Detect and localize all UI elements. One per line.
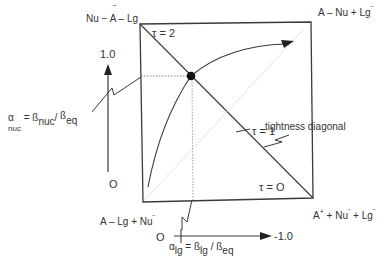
- corner-label-top-left: Nu − A – Lg: [86, 13, 138, 24]
- x-axis-name: αlg = ßlg / ßeq: [169, 241, 233, 256]
- corner-label-bottom-left: A – Lg + Nu‾: [100, 215, 156, 227]
- tau-0-label: τ = O: [259, 181, 285, 193]
- intersection-point: [187, 72, 196, 81]
- y-axis-arrowhead-icon: [104, 64, 112, 75]
- reference-diagonal-dotted: [145, 30, 303, 200]
- corner-label-top-right: A – Nu + Lg‾: [318, 6, 374, 18]
- x-axis-origin-label: O: [156, 231, 165, 243]
- guide-vertical-dotted: [192, 76, 193, 200]
- tau-2-label: τ = 2: [152, 27, 175, 39]
- x-label-leader-zigzag: [182, 200, 192, 230]
- x-axis-arrowhead-icon: [260, 232, 272, 240]
- x-axis-end-label: -1.0: [274, 230, 293, 242]
- tightness-diagram: Nu − A – Lg ‾ A – Nu + Lg‾ A – Lg + Nu‾ …: [0, 0, 385, 265]
- y-axis-name: αnuc = ßnuc/ ßeq: [8, 110, 77, 133]
- y-axis-top-label: 1.0: [100, 48, 115, 60]
- y-axis-bottom-label: O: [109, 178, 118, 190]
- trajectory-curve: [148, 44, 285, 187]
- tightness-diagonal-label: tightness diagonal: [265, 121, 346, 132]
- trajectory-arrowhead-icon: [281, 40, 294, 48]
- y-label-leader-zigzag: [92, 77, 141, 112]
- corner-label-bottom-right: A+ + Nu‾ + Lg‾: [313, 208, 376, 221]
- tightness-diagonal-line: [140, 24, 313, 198]
- frame-square: [140, 22, 313, 202]
- tau1-leader-line: [236, 129, 250, 132]
